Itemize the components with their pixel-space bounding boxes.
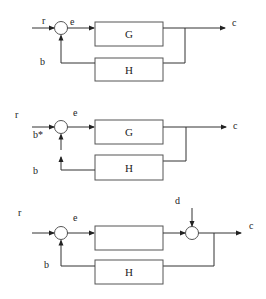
feedback-pickoff-line [163, 127, 186, 161]
label-b: b [44, 259, 49, 270]
diagram-disturbance-feedback: r e b d c H [18, 195, 254, 284]
label-e: e [73, 212, 78, 223]
block-g-label: G [125, 28, 133, 40]
label-c: c [233, 120, 238, 131]
label-c: c [232, 17, 237, 28]
feedback-arrow [61, 36, 95, 64]
block-diagram-canvas: r e b c G H r e b* b c G H [0, 0, 266, 299]
label-e: e [73, 107, 78, 118]
block-forward [95, 226, 163, 250]
block-g-label: G [125, 126, 133, 138]
label-b: b [33, 165, 38, 176]
summing-junction [55, 227, 68, 240]
feedback-pickoff-line [163, 28, 185, 63]
broken-feedback-arrow [61, 157, 95, 170]
disturbance-summing-junction [186, 227, 199, 240]
label-r: r [15, 109, 19, 120]
label-b-star: b* [33, 129, 43, 140]
block-h-label: H [125, 64, 133, 76]
label-d: d [175, 195, 180, 206]
label-r: r [42, 15, 46, 26]
diagram-broken-feedback: r e b* b c G H [15, 107, 238, 180]
summing-junction [55, 22, 68, 35]
feedback-arrow [61, 241, 95, 267]
label-b: b [40, 56, 45, 67]
block-h-label: H [125, 162, 133, 174]
block-h-label: H [125, 266, 133, 278]
label-r: r [18, 207, 22, 218]
summing-junction [55, 121, 68, 134]
label-e: e [70, 16, 75, 27]
diagram-standard-feedback: r e b c G H [32, 15, 237, 81]
label-c: c [249, 220, 254, 231]
